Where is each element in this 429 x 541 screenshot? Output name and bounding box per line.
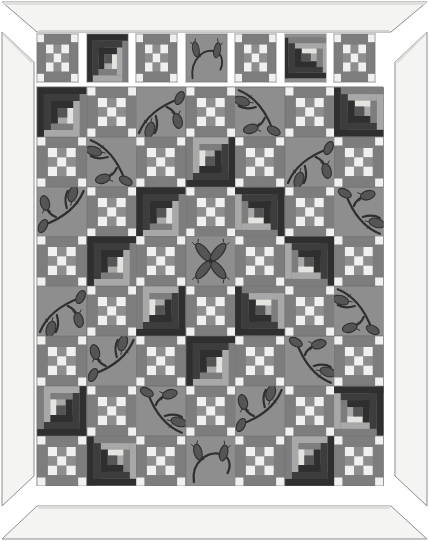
frame-left	[0, 30, 36, 508]
nine-patch-block	[334, 137, 384, 187]
nine-patch-block	[186, 386, 236, 436]
nine-patch-block	[136, 236, 186, 286]
log-cabin-block	[136, 187, 186, 237]
sampler-applique-arc-block	[185, 33, 228, 83]
nine-patch-block	[136, 336, 186, 386]
quilt-row	[37, 137, 384, 187]
log-cabin-block	[285, 436, 335, 486]
nine-patch-block	[37, 436, 87, 486]
applique-tulip-block	[136, 87, 186, 137]
nine-patch-block	[87, 187, 137, 237]
log-cabin-block	[285, 236, 335, 286]
sampler-nine-patch-block	[333, 33, 376, 83]
applique-tulip-block	[285, 336, 335, 386]
nine-patch-block	[186, 187, 236, 237]
applique-arc-block	[186, 436, 236, 486]
nine-patch-block	[334, 336, 384, 386]
nine-patch-block	[285, 386, 335, 436]
nine-patch-block	[235, 436, 285, 486]
nine-patch-block	[235, 336, 285, 386]
nine-patch-block	[334, 436, 384, 486]
sampler-log-cabin-block	[284, 33, 327, 83]
nine-patch-block	[37, 137, 87, 187]
log-cabin-block	[87, 236, 137, 286]
applique-tulip-block	[37, 286, 87, 336]
applique-tulip-block	[136, 386, 186, 436]
log-cabin-block	[235, 187, 285, 237]
log-cabin-block	[186, 336, 236, 386]
log-cabin-block	[37, 87, 87, 137]
nine-patch-block	[285, 187, 335, 237]
log-cabin-block	[235, 286, 285, 336]
nine-patch-block	[136, 436, 186, 486]
applique-flower-block	[186, 236, 236, 286]
frame-right	[390, 30, 429, 508]
quilt-row	[37, 187, 384, 237]
applique-tulip-block	[285, 137, 335, 187]
nine-patch-block	[87, 286, 137, 336]
nine-patch-block	[285, 286, 335, 336]
quilt-row	[37, 436, 384, 486]
sampler-strip	[36, 33, 384, 83]
quilt-row	[37, 236, 384, 286]
nine-patch-block	[87, 87, 137, 137]
quilt-row	[37, 87, 384, 137]
log-cabin-block	[186, 137, 236, 187]
quilt-row	[37, 286, 384, 336]
sampler-log-cabin-block	[86, 33, 129, 83]
applique-tulip-block	[334, 187, 384, 237]
quilt-row	[37, 336, 384, 386]
quilt-illustration	[0, 0, 429, 541]
applique-tulip-block	[235, 386, 285, 436]
applique-tulip-block	[87, 137, 137, 187]
nine-patch-block	[334, 236, 384, 286]
log-cabin-block	[334, 386, 384, 436]
nine-patch-block	[186, 286, 236, 336]
log-cabin-block	[136, 286, 186, 336]
quilt-row	[37, 386, 384, 436]
applique-tulip-block	[235, 87, 285, 137]
frame-bottom	[0, 503, 429, 541]
nine-patch-block	[136, 137, 186, 187]
nine-patch-block	[285, 87, 335, 137]
applique-tulip-block	[87, 336, 137, 386]
nine-patch-block	[87, 386, 137, 436]
log-cabin-block	[87, 436, 137, 486]
nine-patch-block	[235, 236, 285, 286]
applique-tulip-block	[334, 286, 384, 336]
sampler-nine-patch-block	[36, 33, 79, 83]
sampler-nine-patch-block	[135, 33, 178, 83]
nine-patch-block	[235, 137, 285, 187]
sampler-nine-patch-block	[234, 33, 277, 83]
nine-patch-block	[37, 336, 87, 386]
nine-patch-block	[186, 87, 236, 137]
nine-patch-block	[37, 236, 87, 286]
applique-tulip-block	[37, 187, 87, 237]
log-cabin-block	[37, 386, 87, 436]
quilt-body	[36, 86, 383, 486]
frame-top	[0, 0, 429, 34]
log-cabin-block	[334, 87, 384, 137]
